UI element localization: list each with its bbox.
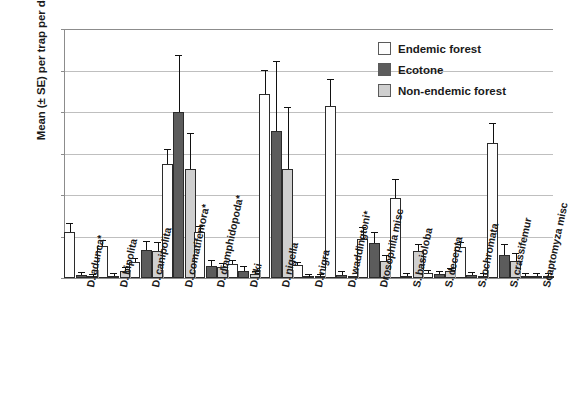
error-bar — [297, 263, 298, 265]
bar-ecotone — [369, 243, 380, 278]
error-bar-cap — [305, 274, 312, 275]
error-bar-cap — [392, 179, 399, 180]
error-bar-cap — [143, 241, 150, 242]
error-bar — [190, 134, 191, 170]
y-tick-mark — [61, 278, 65, 279]
error-bar — [504, 245, 505, 255]
error-bar-cap — [175, 55, 182, 56]
error-bar-cap — [78, 272, 85, 273]
error-bar — [114, 274, 115, 276]
error-bar — [276, 62, 277, 131]
error-bar-cap — [208, 260, 215, 261]
legend-swatch-icon — [378, 42, 391, 55]
error-bar-cap — [261, 70, 268, 71]
error-bar-cap — [533, 273, 540, 274]
bar-group — [325, 29, 358, 278]
error-bar-cap — [468, 272, 475, 273]
bar-group — [293, 29, 326, 278]
error-bar — [342, 272, 343, 274]
error-bar — [135, 259, 136, 262]
bar-ecotone — [271, 131, 282, 278]
error-bar-cap — [164, 149, 171, 150]
error-bar — [309, 275, 310, 277]
bar-ecotone — [336, 275, 347, 278]
error-bar — [395, 180, 396, 198]
legend-label: Ecotone — [398, 64, 443, 76]
error-bar-cap — [273, 61, 280, 62]
error-bar-cap — [371, 232, 378, 233]
bar-ecotone — [499, 255, 510, 278]
error-bar-cap — [436, 271, 443, 272]
bar-ecotone — [466, 275, 477, 278]
error-bar-cap — [501, 244, 508, 245]
error-bar-cap — [338, 271, 345, 272]
error-bar — [167, 150, 168, 164]
chart-legend: Endemic forestEcotoneNon-endemic forest — [378, 38, 506, 101]
error-bar — [537, 274, 538, 276]
legend-item: Non-endemic forest — [378, 80, 506, 101]
legend-item: Ecotone — [378, 59, 506, 80]
bar-ecotone — [173, 112, 184, 278]
error-bar-cap — [327, 79, 334, 80]
legend-item: Endemic forest — [378, 38, 506, 59]
error-bar — [179, 56, 180, 112]
legend-swatch-icon — [378, 84, 391, 97]
legend-swatch-icon — [378, 63, 391, 76]
legend-label: Non-endemic forest — [398, 85, 506, 97]
error-bar-cap — [489, 123, 496, 124]
error-bar-cap — [240, 266, 247, 267]
bar-endemic — [259, 94, 270, 278]
y-axis-title: Mean (± SE) per trap per day — [35, 0, 47, 189]
bar-ecotone — [531, 276, 542, 278]
error-bar-cap — [187, 133, 194, 134]
error-bar-cap — [66, 223, 73, 224]
error-bar — [265, 71, 266, 94]
error-bar-cap — [522, 273, 529, 274]
error-bar — [374, 233, 375, 243]
error-bar — [232, 261, 233, 264]
error-bar — [439, 272, 440, 274]
bar-endemic — [64, 232, 75, 278]
error-bar-cap — [110, 273, 117, 274]
error-bar — [244, 267, 245, 270]
error-bar — [288, 108, 289, 169]
legend-label: Endemic forest — [398, 43, 481, 55]
error-bar — [472, 273, 473, 275]
error-bar — [330, 80, 331, 106]
error-bar — [493, 124, 494, 142]
error-bar — [81, 273, 82, 275]
bar-ecotone — [141, 250, 152, 278]
error-bar-cap — [403, 273, 410, 274]
error-bar — [146, 242, 147, 249]
error-bar — [407, 274, 408, 276]
error-bar — [428, 271, 429, 273]
error-bar — [211, 261, 212, 265]
error-bar-cap — [284, 107, 291, 108]
error-bar — [525, 274, 526, 276]
error-bar — [70, 224, 71, 231]
